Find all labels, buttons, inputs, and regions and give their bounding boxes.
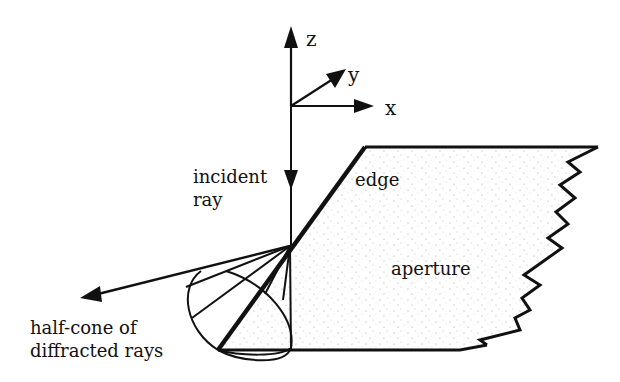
- edge-label: edge: [355, 169, 399, 190]
- diffraction-diagram: z y x incident ray edge aperture half-co…: [0, 0, 620, 382]
- y-axis-label: y: [347, 63, 360, 87]
- incident-ray: [284, 106, 298, 248]
- diffracted-arrow-icon: [80, 286, 102, 302]
- z-arrow-icon: [284, 26, 298, 48]
- z-axis-label: z: [306, 27, 317, 51]
- half-cone-label-line1: half-cone of: [30, 317, 138, 338]
- incident-ray-label-line1: incident: [193, 166, 268, 187]
- y-arrow-icon: [326, 69, 346, 88]
- incident-ray-label-line2: ray: [193, 189, 223, 210]
- x-axis-label: x: [385, 96, 397, 120]
- aperture-plane: [218, 147, 598, 350]
- coordinate-axes: [284, 26, 374, 113]
- half-cone-label-line2: diffracted rays: [30, 340, 163, 361]
- aperture-label: aperture: [391, 258, 471, 279]
- incident-arrow-icon: [284, 170, 298, 190]
- x-arrow-icon: [354, 99, 374, 113]
